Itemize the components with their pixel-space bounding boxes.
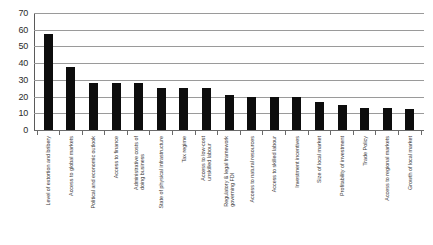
x-category-label: Access to skilled labour [271, 136, 277, 192]
bar-slot [218, 13, 241, 130]
x-label-slot: Access to skilled labour [263, 136, 286, 245]
tick-slot [150, 131, 173, 135]
bar-slot [308, 13, 331, 130]
bar-slot [60, 13, 83, 130]
x-category-label: Tax regime [181, 136, 187, 162]
bar[interactable] [405, 109, 414, 130]
bar-slot [37, 13, 60, 130]
bar-slot [195, 13, 218, 130]
x-tick-mark [172, 131, 173, 135]
tick-slot [218, 131, 241, 135]
tick-slot [263, 131, 286, 135]
bar-slot [353, 13, 376, 130]
x-category-label: Regulatory & legal frameworkgoverning FD… [223, 136, 235, 207]
bar[interactable] [66, 67, 75, 130]
tick-slot [353, 131, 376, 135]
bar[interactable] [89, 83, 98, 130]
tick-slot [82, 131, 105, 135]
bar[interactable] [112, 83, 121, 130]
tick-slot [60, 131, 83, 135]
bar[interactable] [247, 97, 256, 130]
bar-slot [331, 13, 354, 130]
x-tick-mark [262, 131, 263, 135]
tick-slot [399, 131, 422, 135]
x-label-slot: Size of local market [308, 136, 331, 245]
x-axis-category-labels: Level of extortion and briberyAccess to … [34, 136, 424, 245]
x-category-label: Size of local market [316, 136, 322, 183]
x-category-label: Access to regional markets [384, 136, 390, 201]
x-label-slot: State of physical infrastructure [150, 136, 173, 245]
x-category-label: Access to low-costunskilled labour [200, 136, 212, 181]
x-tick-mark [82, 131, 83, 135]
y-axis-tick-labels: 010203040506070 [0, 0, 32, 245]
y-tick-label: 40 [18, 59, 28, 68]
x-tick-mark [127, 131, 128, 135]
x-label-slot: Growth of local market [399, 136, 422, 245]
y-tick-label: 50 [18, 42, 28, 51]
x-tick-mark [353, 131, 354, 135]
bar[interactable] [179, 88, 188, 130]
plot-area [34, 13, 424, 130]
bar[interactable] [315, 102, 324, 130]
x-tick-mark [398, 131, 399, 135]
x-label-slot: Access to regional markets [376, 136, 399, 245]
x-label-slot: Investment incentives [286, 136, 309, 245]
x-axis-ticks [34, 131, 424, 135]
bar-slot [376, 13, 399, 130]
bar-slot [105, 13, 128, 130]
x-category-label: Growth of local market [407, 136, 413, 190]
bar[interactable] [225, 95, 234, 130]
x-label-slot: Regulatory & legal frameworkgoverning FD… [218, 136, 241, 245]
x-category-label: Trade Policy [362, 136, 368, 166]
bar-slot [150, 13, 173, 130]
x-label-slot: Access to global markets [60, 136, 83, 245]
bar-chart: 010203040506070 Level of extortion and b… [0, 0, 433, 245]
tick-slot [376, 131, 399, 135]
x-tick-mark [37, 131, 38, 135]
bar-slot [399, 13, 422, 130]
y-tick-label: 0 [23, 126, 28, 135]
x-category-label: State of physical infrastructure [158, 136, 164, 209]
x-tick-mark [375, 131, 376, 135]
bar[interactable] [157, 88, 166, 130]
bar-slot [240, 13, 263, 130]
tick-slot [195, 131, 218, 135]
bar[interactable] [292, 97, 301, 130]
x-tick-mark [104, 131, 105, 135]
y-tick-label: 70 [18, 9, 28, 18]
x-label-slot: Tax regime [173, 136, 196, 245]
x-category-label: Access to global markets [68, 136, 74, 196]
x-label-slot: Political and economic outlook [82, 136, 105, 245]
bar-slot [286, 13, 309, 130]
x-tick-mark [330, 131, 331, 135]
x-label-slot: Level of extortion and bribery [37, 136, 60, 245]
tick-slot [286, 131, 309, 135]
x-category-label: Level of extortion and bribery [45, 136, 51, 206]
x-label-slot: Access to natural resources [240, 136, 263, 245]
bar[interactable] [338, 105, 347, 130]
bar[interactable] [44, 34, 53, 130]
y-tick-label: 30 [18, 75, 28, 84]
x-tick-mark [308, 131, 309, 135]
tick-slot [240, 131, 263, 135]
bar[interactable] [202, 88, 211, 130]
x-category-label: Political and economic outlook [90, 136, 96, 209]
x-tick-mark [59, 131, 60, 135]
x-label-slot: Administrative costs ofdoing business [127, 136, 150, 245]
tick-slot [37, 131, 60, 135]
x-label-slot: Trade Policy [353, 136, 376, 245]
tick-slot [308, 131, 331, 135]
x-category-label: Profitability of investment [339, 136, 345, 196]
y-tick-label: 10 [18, 109, 28, 118]
bar[interactable] [383, 108, 392, 130]
y-tick-label: 60 [18, 25, 28, 34]
bar[interactable] [134, 83, 143, 130]
x-tick-mark [240, 131, 241, 135]
x-tick-mark [421, 131, 422, 135]
x-tick-mark [195, 131, 196, 135]
x-label-slot: Access to finance [105, 136, 128, 245]
bar[interactable] [270, 97, 279, 130]
x-category-label: Access to finance [113, 136, 119, 178]
bar-slot [263, 13, 286, 130]
bar[interactable] [360, 108, 369, 130]
